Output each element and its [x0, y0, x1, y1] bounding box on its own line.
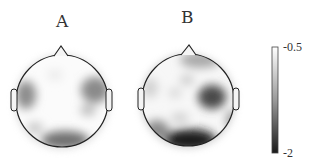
- colorbar: [272, 47, 278, 153]
- scalp-map-a: [10, 46, 120, 160]
- topography-figure: [0, 0, 319, 164]
- scalp-map-b: [136, 45, 246, 160]
- colorbar-max-label: -0.5: [283, 41, 302, 53]
- colorbar-min-label: -2: [283, 147, 293, 159]
